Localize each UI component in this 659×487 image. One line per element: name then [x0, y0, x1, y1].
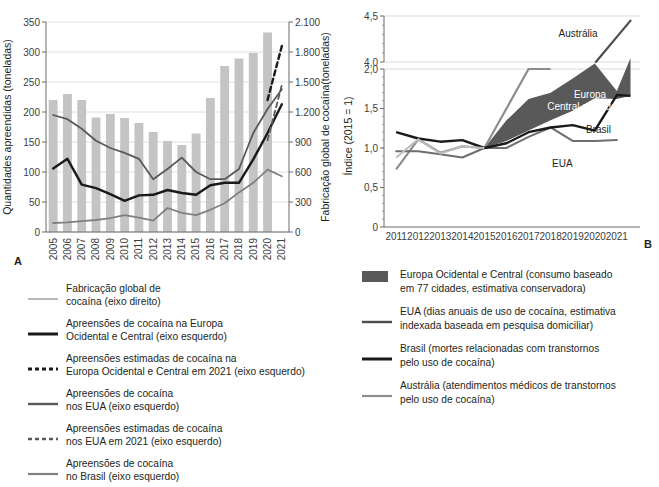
legend-item: Apreensões de cocaína nos EUA (eixo esqu… — [28, 387, 340, 413]
legend-key-line-medium-gray — [28, 463, 58, 467]
panel-b-letter: B — [644, 238, 652, 250]
y-left-tick: 200 — [23, 107, 40, 118]
legend-item: Apreensões de cocaína na Europa Ocidenta… — [28, 317, 340, 343]
bar-2009 — [106, 114, 115, 232]
legend-key-swatch-gray — [362, 274, 392, 278]
y-left-axis-title: Quantidades apreendidas (toneladas) — [1, 39, 13, 215]
legend-label: EUA (dias anuais de uso de cocaína, esti… — [400, 305, 616, 332]
x-tick-2007: 2007 — [76, 238, 87, 261]
legend-label: Apreensões de cocaína nos EUA (eixo esqu… — [66, 387, 179, 413]
legend-label: Apreensões estimadas de cocaína na Europ… — [66, 352, 305, 378]
y-right-tick: 1.200 — [295, 107, 320, 118]
legend-key-dash-medium-dark — [28, 428, 58, 432]
y-right-tick: 1.500 — [295, 77, 320, 88]
y-right-tick: 300 — [295, 197, 312, 208]
bar-2013 — [163, 141, 172, 232]
legend-key-line-medium-gray — [362, 385, 392, 389]
legend-key-line-thick-black — [28, 323, 58, 327]
x-tick-2019: 2019 — [562, 231, 585, 242]
x-tick-2006: 2006 — [62, 238, 73, 261]
y-left-tick: 50 — [29, 197, 41, 208]
x-tick-2018: 2018 — [539, 231, 562, 242]
legend-label: Austrália (atendimentos médicos de trans… — [400, 379, 616, 406]
bar-2017 — [220, 66, 229, 232]
legend-item: Apreensões estimadas de cocaína na Europ… — [28, 352, 340, 378]
legend-item: Austrália (atendimentos médicos de trans… — [362, 379, 659, 406]
x-tick-2008: 2008 — [90, 238, 101, 261]
legend-item: Europa Ocidental e Central (consumo base… — [362, 268, 659, 295]
panel-a-legend: Fabricação global de cocaína (eixo direi… — [28, 282, 340, 487]
legend-label: Europa Ocidental e Central (consumo base… — [400, 268, 612, 295]
y-right-tick: 900 — [295, 137, 312, 148]
x-tick-2005: 2005 — [48, 238, 59, 261]
x-tick-2020: 2020 — [584, 231, 607, 242]
y-tick: 1,0 — [364, 143, 378, 154]
y-left-tick: 250 — [23, 77, 40, 88]
x-tick-2017: 2017 — [219, 238, 230, 261]
legend-label: Apreensões estimadas de cocaína nos EUA … — [66, 422, 222, 448]
legend-label: Apreensões de cocaína no Brasil (eixo es… — [66, 457, 179, 483]
x-tick-2017: 2017 — [517, 231, 540, 242]
panel-a-chart: 05010015020025030035003006009001.2001.50… — [0, 0, 340, 275]
y-right-axis-title: Fabricação global de cocaína(toneladas) — [319, 32, 331, 222]
x-tick-2016: 2016 — [495, 231, 518, 242]
line-australia-upper — [596, 21, 631, 62]
legend-item: Apreensões estimadas de cocaína nos EUA … — [28, 422, 340, 448]
x-tick-2014: 2014 — [176, 238, 187, 261]
bar-2008 — [92, 118, 101, 233]
y-right-tick: 1.800 — [295, 47, 320, 58]
legend-item: EUA (dias anuais de uso de cocaína, esti… — [362, 305, 659, 332]
x-tick-2013: 2013 — [429, 231, 452, 242]
annotation-brasil: Brasil — [586, 124, 611, 135]
annotation-australia: Austrália — [559, 28, 598, 39]
legend-item: Fabricação global de cocaína (eixo direi… — [28, 282, 340, 308]
x-tick-2011: 2011 — [385, 231, 407, 242]
y-right-tick: 0 — [295, 227, 301, 238]
legend-key-line-medium-dark — [28, 393, 58, 397]
panel-a-letter: A — [14, 255, 22, 267]
y-left-tick: 300 — [23, 47, 40, 58]
x-tick-2012: 2012 — [407, 231, 430, 242]
y-tick: 4,5 — [364, 11, 378, 22]
annotation-eua: EUA — [552, 158, 573, 169]
legend-key-line-medium-dark — [362, 311, 392, 315]
y-right-tick: 600 — [295, 167, 312, 178]
y-left-tick: 0 — [34, 227, 40, 238]
y-left-tick: 350 — [23, 17, 40, 28]
x-tick-2012: 2012 — [148, 238, 159, 261]
y-tick: 1,5 — [364, 103, 378, 114]
x-tick-2021: 2021 — [276, 238, 287, 261]
x-tick-2015: 2015 — [473, 231, 496, 242]
bar-2007 — [77, 100, 86, 232]
legend-label: Brasil (mortes relacionadas com transtor… — [400, 342, 599, 369]
x-tick-2015: 2015 — [190, 238, 201, 261]
figure-container: 05010015020025030035003006009001.2001.50… — [0, 0, 659, 487]
x-tick-2010: 2010 — [119, 238, 130, 261]
y-axis-title: Índice (2015 = 1) — [342, 96, 354, 175]
legend-label: Apreensões de cocaína na Europa Ocidenta… — [66, 317, 227, 343]
x-tick-2019: 2019 — [248, 238, 259, 261]
panel-a: 05010015020025030035003006009001.2001.50… — [0, 0, 340, 487]
x-tick-2009: 2009 — [105, 238, 116, 261]
x-tick-2011: 2011 — [133, 238, 144, 260]
y-left-tick: 150 — [23, 137, 40, 148]
x-tick-2016: 2016 — [205, 238, 216, 261]
y-tick: 0 — [372, 222, 378, 233]
legend-key-line-thick-black — [362, 348, 392, 352]
y-tick: 0,5 — [364, 182, 378, 193]
bar-2018 — [235, 59, 244, 233]
x-tick-2018: 2018 — [233, 238, 244, 261]
x-tick-2021: 2021 — [606, 231, 629, 242]
y-tick: 4,0 — [364, 57, 378, 68]
legend-key-dash-thick-black — [28, 358, 58, 362]
legend-key-line-thin-light — [28, 288, 58, 292]
bar-2011 — [134, 123, 143, 232]
panel-b-legend: Europa Ocidental e Central (consumo base… — [362, 268, 659, 416]
legend-item: Brasil (mortes relacionadas com transtor… — [362, 342, 659, 369]
legend-swatch — [362, 271, 388, 282]
legend-item: Apreensões de cocaína no Brasil (eixo es… — [28, 457, 340, 483]
y-right-tick: 2.100 — [295, 17, 320, 28]
legend-label: Fabricação global de cocaína (eixo direi… — [66, 282, 161, 308]
panel-b: 00,51,01,52,04,04,5201120122013201420152… — [340, 0, 659, 487]
x-tick-2014: 2014 — [451, 231, 474, 242]
